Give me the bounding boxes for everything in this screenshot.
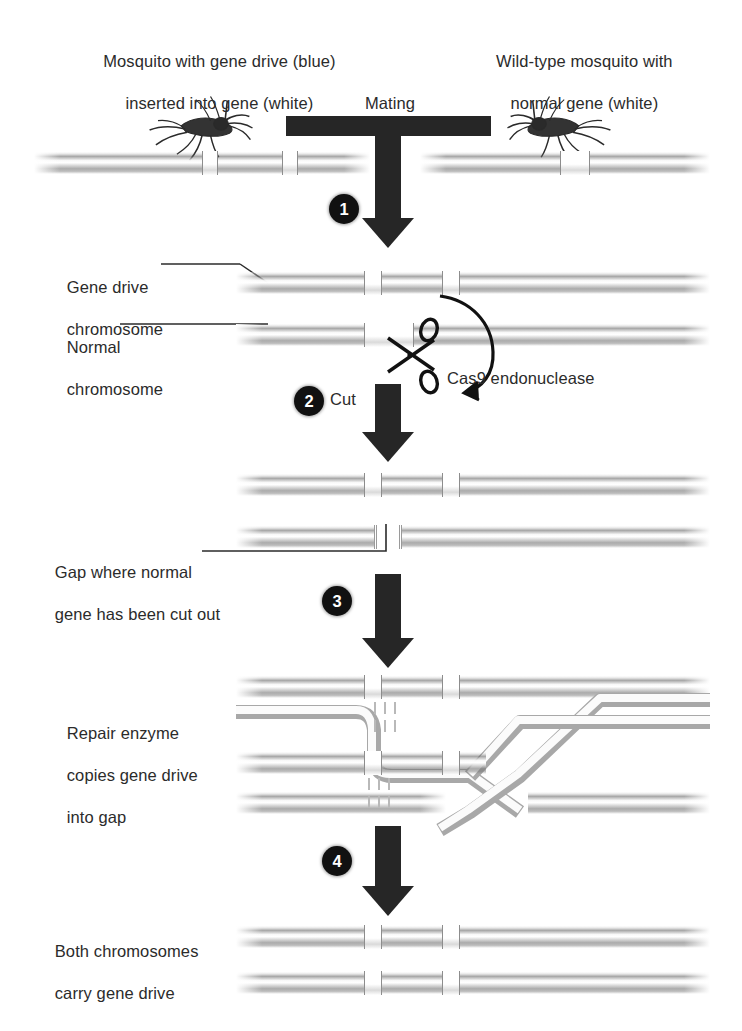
gene-drive-band xyxy=(282,151,298,175)
normal-gene-band xyxy=(364,323,414,347)
gap-label: Gap where normal gene has been cut out xyxy=(36,541,296,646)
synthesis-tick xyxy=(384,702,386,714)
mating-bar xyxy=(286,116,491,136)
result-label-line1: Both chromosomes xyxy=(55,942,199,960)
cas9-label: Cas9 endonuclease xyxy=(447,368,677,389)
chromosome-repaired-right xyxy=(528,792,710,814)
chromosome-result-2 xyxy=(236,972,710,994)
synthesis-tick xyxy=(374,720,376,732)
synthesis-tick xyxy=(388,778,390,790)
gap-label-line1: Gap where normal xyxy=(55,563,192,581)
gene-drive-band xyxy=(442,675,460,699)
gene-drive-band xyxy=(442,271,460,295)
normal-chromosome-label-line1: Normal xyxy=(67,338,121,356)
normal-chromosome-label: Normal chromosome xyxy=(48,316,258,421)
chromosome-gene-drive xyxy=(236,272,710,294)
copied-gene-band xyxy=(364,751,382,775)
synthesis-tick xyxy=(378,796,380,808)
step-4-badge: 4 xyxy=(322,846,352,876)
synthesis-tick xyxy=(378,778,380,790)
chromosome-result-1 xyxy=(236,926,710,948)
gap-label-line2: gene has been cut out xyxy=(55,605,220,623)
synthesis-tick xyxy=(388,796,390,808)
diagram-canvas: Mosquito with gene drive (blue) inserted… xyxy=(0,0,742,1031)
repair-strand-cross-d xyxy=(470,720,710,774)
mating-label: Mating xyxy=(310,93,470,114)
step-3-arrow xyxy=(362,574,414,668)
synthesis-tick xyxy=(394,720,396,732)
repair-label-line3: into gap xyxy=(67,808,127,826)
gene-band xyxy=(364,675,382,699)
chromosome-gene-drive-template xyxy=(236,676,710,698)
result-label: Both chromosomes carry gene drive xyxy=(36,920,266,1025)
left-parent-caption-line1: Mosquito with gene drive (blue) xyxy=(103,52,335,70)
normal-gene-band xyxy=(560,151,590,175)
synthesis-tick xyxy=(384,720,386,732)
repair-strand-cross-c xyxy=(470,722,710,776)
synthesis-tick xyxy=(368,778,370,790)
chromosome-parent-gene-drive xyxy=(34,152,370,174)
step-4-arrow xyxy=(362,826,414,916)
step-3-badge: 3 xyxy=(322,586,352,616)
synthesis-tick xyxy=(394,702,396,714)
step-2-label: Cut xyxy=(330,389,390,410)
step-2-badge: 2 xyxy=(294,386,324,416)
step-1-badge: 1 xyxy=(329,194,359,224)
gene-band xyxy=(364,473,382,497)
right-parent-caption-line2: normal gene (white) xyxy=(511,94,659,112)
gene-drive-chromosome-label-line1: Gene drive xyxy=(67,278,149,296)
gene-band xyxy=(202,151,218,175)
chromosome-repaired-lower xyxy=(236,752,486,774)
chromosome-cut-right-fragment xyxy=(400,526,710,548)
gene-drive-band xyxy=(442,473,460,497)
step-1-arrow xyxy=(362,196,414,248)
copied-gene-drive-band xyxy=(442,751,460,775)
chromosome-parent-wild-type xyxy=(420,152,710,174)
normal-chromosome-label-line2: chromosome xyxy=(67,380,163,398)
cut-end-left xyxy=(399,525,402,549)
result-label-line2: carry gene drive xyxy=(55,984,175,1002)
synthesis-tick xyxy=(368,796,370,808)
left-parent-caption-line2: inserted into gene (white) xyxy=(125,94,313,112)
cut-end-right xyxy=(374,525,377,549)
chromosome-normal xyxy=(236,324,710,346)
repair-label: Repair enzyme copies gene drive into gap xyxy=(48,702,278,849)
gene-drive-band xyxy=(442,925,460,949)
gene-band xyxy=(364,925,382,949)
repair-label-line2: copies gene drive xyxy=(67,766,198,784)
chromosome-repaired-tail xyxy=(236,792,446,814)
chromosome-gene-drive-after-cut xyxy=(236,474,710,496)
gene-band xyxy=(364,971,382,995)
synthesis-tick xyxy=(374,702,376,714)
repair-label-line1: Repair enzyme xyxy=(67,724,179,742)
gene-band xyxy=(364,271,382,295)
right-parent-caption-line1: Wild-type mosquito with xyxy=(496,52,673,70)
gene-drive-band xyxy=(442,971,460,995)
